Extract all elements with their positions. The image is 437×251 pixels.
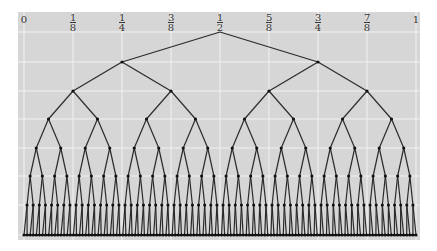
leaf-node: [183, 233, 186, 236]
leaf-node: [124, 233, 127, 236]
tree-node: [313, 203, 316, 206]
tree-node: [270, 203, 273, 206]
tree-node: [172, 203, 175, 206]
leaf-node: [353, 233, 356, 236]
leaf-node: [346, 233, 349, 236]
tree-node: [329, 146, 332, 149]
leaf-node: [288, 233, 291, 236]
leaf-node: [254, 233, 257, 236]
tree-node: [286, 174, 289, 177]
leaf-node: [155, 233, 158, 236]
tree-node: [93, 203, 96, 206]
leaf-node: [93, 233, 96, 236]
tree-node: [246, 203, 249, 206]
leaf-node: [29, 233, 32, 236]
leaf-node: [180, 233, 183, 236]
tree-node: [136, 203, 139, 206]
leaf-node: [414, 233, 417, 236]
leaf-node: [319, 233, 322, 236]
tree-node: [396, 174, 399, 177]
leaf-node: [127, 233, 130, 236]
leaf-node: [374, 233, 377, 236]
leaf-node: [362, 233, 365, 236]
leaf-node: [411, 233, 414, 236]
tree-node: [264, 203, 267, 206]
leaf-node: [368, 233, 371, 236]
leaf-node: [103, 233, 106, 236]
leaf-node: [380, 233, 383, 236]
tree-node: [405, 203, 408, 206]
panel-background: [18, 12, 420, 240]
leaf-node: [84, 233, 87, 236]
tree-node: [25, 203, 28, 206]
tree-node: [341, 117, 344, 120]
tree-node: [81, 203, 84, 206]
leaf-node: [399, 233, 402, 236]
tree-node: [255, 146, 258, 149]
axis-label: 34: [310, 13, 326, 32]
tree-node: [84, 146, 87, 149]
tree-node: [32, 203, 35, 206]
leaf-node: [220, 233, 223, 236]
leaf-node: [393, 233, 396, 236]
leaf-node: [50, 233, 53, 236]
leaf-node: [140, 233, 143, 236]
axis-label: 14: [114, 13, 130, 32]
tree-node: [237, 174, 240, 177]
tree-node: [399, 203, 402, 206]
tree-node: [350, 203, 353, 206]
leaf-node: [309, 233, 312, 236]
leaf-node: [96, 233, 99, 236]
tree-node: [38, 203, 41, 206]
leaf-node: [146, 233, 149, 236]
leaf-node: [297, 233, 300, 236]
tree-node: [304, 146, 307, 149]
leaf-node: [189, 233, 192, 236]
leaf-node: [303, 233, 306, 236]
tree-node: [221, 203, 224, 206]
tree-node: [252, 203, 255, 206]
tree-node: [142, 203, 145, 206]
tree-node: [148, 203, 151, 206]
tree-node: [50, 203, 53, 206]
leaf-node: [59, 233, 62, 236]
tree-edge: [101, 205, 102, 235]
axis-label: 0: [16, 15, 32, 24]
tree-node: [130, 203, 133, 206]
leaf-node: [291, 233, 294, 236]
leaf-node: [22, 233, 25, 236]
tree-node: [90, 174, 93, 177]
tree-node: [197, 203, 200, 206]
tree-node: [335, 174, 338, 177]
tree-node: [62, 203, 65, 206]
leaf-node: [177, 233, 180, 236]
leaf-node: [164, 233, 167, 236]
leaf-node: [272, 233, 275, 236]
tree-node: [258, 203, 261, 206]
tree-node: [249, 174, 252, 177]
leaf-node: [337, 233, 340, 236]
leaf-node: [359, 233, 362, 236]
leaf-node: [242, 233, 245, 236]
tree-node: [215, 203, 218, 206]
tree-node: [402, 146, 405, 149]
leaf-node: [134, 233, 137, 236]
tree-node: [111, 203, 114, 206]
tree-node: [261, 174, 264, 177]
leaf-node: [41, 233, 44, 236]
tree-node: [307, 203, 310, 206]
leaf-node: [143, 233, 146, 236]
tree-node: [411, 203, 414, 206]
leaf-node: [90, 233, 93, 236]
leaf-node: [300, 233, 303, 236]
tree-node: [44, 203, 47, 206]
tree-node: [188, 174, 191, 177]
tree-node: [292, 117, 295, 120]
tree-edge: [94, 205, 95, 235]
leaf-node: [109, 233, 112, 236]
tree-node: [74, 203, 77, 206]
tree-node: [117, 203, 120, 206]
leaf-node: [251, 233, 254, 236]
tree-node: [301, 203, 304, 206]
leaf-node: [238, 233, 241, 236]
